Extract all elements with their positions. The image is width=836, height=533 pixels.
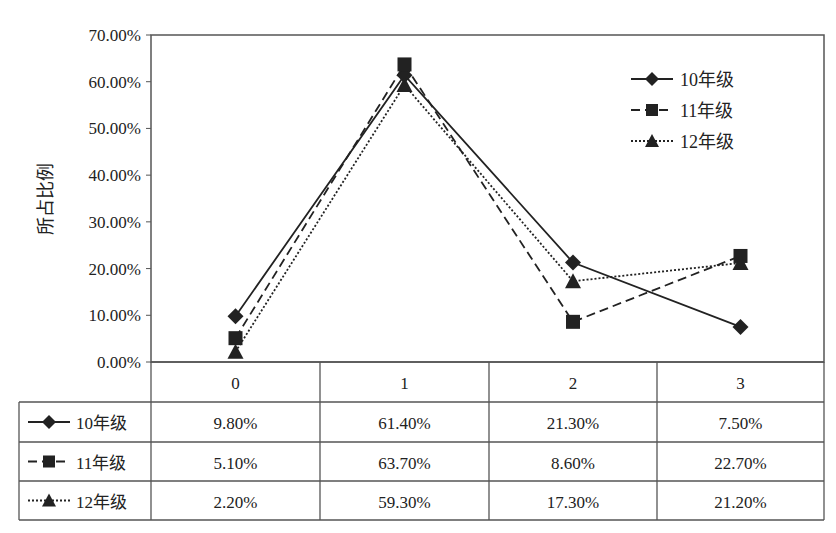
y-axis-label: 所占比例 [36, 163, 56, 235]
x-category-label: 2 [569, 374, 578, 393]
series-11年级 [229, 57, 748, 345]
table-cell: 8.60% [551, 454, 595, 473]
y-axis-title: 所占比例 [36, 163, 56, 235]
row-header: 10年级 [76, 414, 127, 433]
series-lines [228, 57, 749, 358]
y-tick-label: 30.00% [89, 213, 141, 232]
table-cell: 59.30% [378, 493, 430, 512]
legend-label: 10年级 [680, 70, 734, 90]
legend-item: 10年级 [631, 70, 734, 90]
x-category-label: 0 [231, 374, 240, 393]
series-12年级 [228, 77, 749, 359]
diamond-marker [228, 308, 244, 324]
row-header: 11年级 [76, 454, 126, 473]
legend-label: 11年级 [680, 101, 733, 121]
y-tick-label: 20.00% [89, 260, 141, 279]
square-marker [566, 315, 580, 329]
x-category-label: 3 [736, 374, 745, 393]
triangle-marker [228, 344, 244, 359]
series-10年级 [228, 67, 749, 335]
table-cell: 21.20% [714, 493, 766, 512]
diamond-marker [733, 319, 749, 335]
table-cell: 21.30% [547, 414, 599, 433]
table-cell: 22.70% [714, 454, 766, 473]
y-tick-label: 10.00% [89, 306, 141, 325]
y-tick-label: 70.00% [89, 26, 141, 45]
table-row: 11年级5.10%63.70%8.60%22.70% [28, 454, 767, 473]
table-cell: 61.40% [378, 414, 430, 433]
diamond-marker [645, 72, 659, 86]
y-tick-label: 40.00% [89, 166, 141, 185]
y-axis-ticks: 0.00%10.00%20.00%30.00%40.00%50.00%60.00… [89, 26, 151, 372]
table-cell: 63.70% [378, 454, 430, 473]
table-row: 10年级9.80%61.40%21.30%7.50% [28, 414, 762, 433]
diamond-marker [42, 415, 56, 429]
square-marker [43, 456, 55, 468]
x-category-label: 1 [400, 374, 409, 393]
table-cell: 5.10% [214, 454, 258, 473]
row-header: 12年级 [76, 493, 127, 512]
table-row: 12年级2.20%59.30%17.30%21.20% [28, 493, 767, 512]
legend-item: 11年级 [631, 101, 733, 121]
square-marker [646, 104, 658, 116]
legend: 10年级11年级12年级 [631, 70, 734, 152]
data-table: 012310年级9.80%61.40%21.30%7.50%11年级5.10%6… [19, 362, 824, 520]
y-tick-label: 60.00% [89, 73, 141, 92]
table-cell: 9.80% [214, 414, 258, 433]
y-tick-label: 0.00% [97, 353, 141, 372]
line-chart: 所占比例 0.00%10.00%20.00%30.00%40.00%50.00%… [0, 0, 836, 533]
y-tick-label: 50.00% [89, 119, 141, 138]
table-cell: 7.50% [719, 414, 763, 433]
legend-item: 12年级 [631, 132, 734, 152]
legend-label: 12年级 [680, 132, 734, 152]
table-cell: 17.30% [547, 493, 599, 512]
square-marker [398, 57, 412, 71]
table-cell: 2.20% [214, 493, 258, 512]
